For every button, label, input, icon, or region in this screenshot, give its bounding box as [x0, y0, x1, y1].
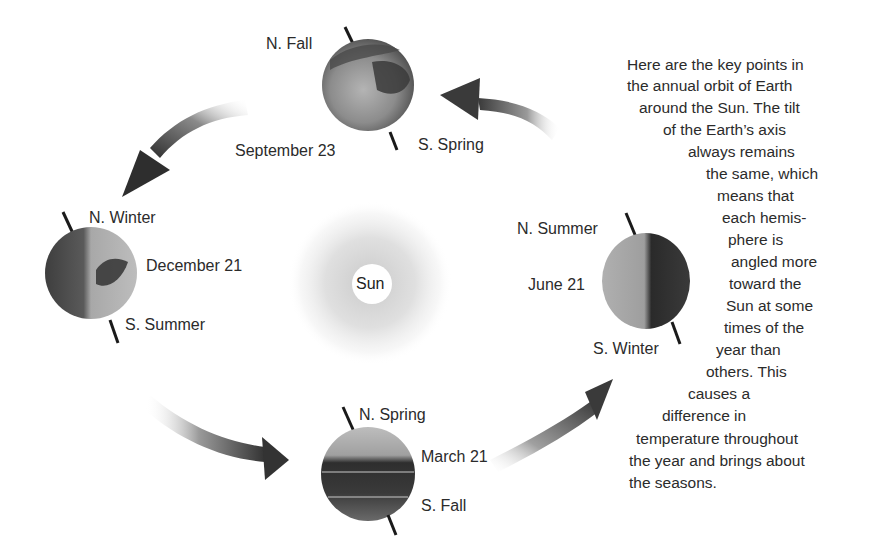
- label-june-north: N. Summer: [517, 220, 598, 238]
- description-line: the annual orbit of Earth: [627, 77, 792, 96]
- label-june-date: June 21: [528, 276, 585, 294]
- seasons-diagram: Sun N. Fall September 23 S. Spring N. Wi…: [0, 0, 896, 551]
- arrow-march-to-june-icon: [490, 379, 613, 472]
- label-march-north: N. Spring: [359, 406, 426, 424]
- description-line: angled more: [731, 253, 817, 272]
- description-line: each hemis-: [722, 209, 806, 228]
- description-line: toward the: [729, 275, 801, 294]
- description-line: Sun at some: [726, 297, 813, 316]
- description-line: around the Sun. The tilt: [639, 99, 800, 118]
- description-line: the same, which: [706, 165, 818, 184]
- label-september-north: N. Fall: [266, 35, 312, 53]
- label-march-date: March 21: [421, 448, 488, 466]
- label-december-south: S. Summer: [125, 316, 205, 334]
- arrow-december-to-march-icon: [145, 395, 289, 480]
- label-september-date: September 23: [235, 142, 336, 160]
- description-line: year than: [716, 341, 781, 360]
- earth-september-icon: [322, 27, 414, 150]
- description-line: the seasons.: [629, 474, 717, 493]
- description-line: of the Earth’s axis: [663, 121, 786, 140]
- description-line: phere is: [728, 231, 783, 250]
- label-march-south: S. Fall: [421, 497, 466, 515]
- description-line: others. This: [706, 363, 787, 382]
- description-line: times of the: [724, 319, 804, 338]
- arrow-september-to-december-icon: [122, 100, 248, 197]
- sun-label: Sun: [356, 275, 384, 293]
- earth-june-icon: [602, 213, 690, 344]
- label-december-date: December 21: [146, 257, 242, 275]
- description-line: always remains: [688, 143, 795, 162]
- description-line: temperature throughout: [636, 430, 798, 449]
- label-september-south: S. Spring: [418, 136, 484, 154]
- description-line: the year and brings about: [629, 452, 805, 471]
- description-line: causes a: [688, 385, 750, 404]
- label-june-south: S. Winter: [593, 340, 659, 358]
- arrow-june-to-september-icon: [440, 78, 560, 140]
- description-line: Here are the key points in: [627, 56, 804, 75]
- description-line: difference in: [662, 407, 746, 426]
- label-december-north: N. Winter: [89, 209, 156, 227]
- description-line: means that: [717, 187, 794, 206]
- earth-march-icon: [321, 407, 415, 535]
- earth-december-icon: [45, 212, 137, 343]
